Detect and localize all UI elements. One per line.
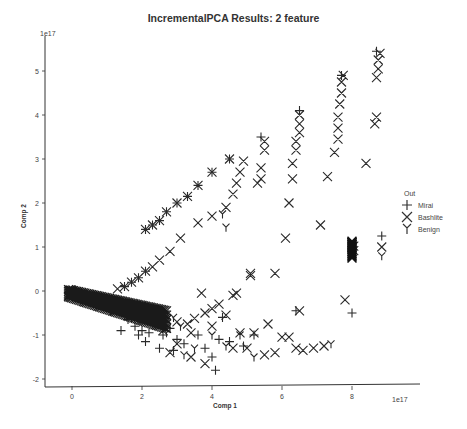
svg-text:4: 4 — [210, 393, 214, 400]
svg-text:0: 0 — [35, 288, 39, 295]
scatter-plot: 02468-2-1012345 — [0, 0, 467, 429]
svg-text:-1: -1 — [33, 332, 39, 339]
x-marker-icon — [400, 211, 414, 223]
svg-text:4: 4 — [35, 112, 39, 119]
legend: Out Mirai Bashlite Benign — [400, 190, 443, 235]
svg-text:2: 2 — [35, 200, 39, 207]
svg-text:1: 1 — [35, 244, 39, 251]
svg-text:2: 2 — [140, 393, 144, 400]
legend-title: Out — [404, 190, 443, 197]
legend-entry-bashlite: Bashlite — [400, 211, 443, 223]
y-marker-icon — [400, 223, 414, 235]
svg-text:6: 6 — [280, 393, 284, 400]
svg-text:8: 8 — [350, 393, 354, 400]
data-points — [64, 47, 386, 375]
legend-entry-mirai: Mirai — [400, 199, 443, 211]
plus-marker-icon — [400, 199, 414, 211]
svg-text:-2: -2 — [33, 376, 39, 383]
svg-text:3: 3 — [35, 156, 39, 163]
svg-text:0: 0 — [70, 393, 74, 400]
legend-entry-benign: Benign — [400, 223, 443, 235]
svg-text:5: 5 — [35, 68, 39, 75]
